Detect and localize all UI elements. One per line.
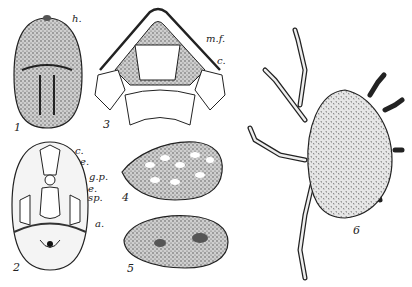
label-a: a. <box>95 219 104 229</box>
figure-number-6: 6 <box>353 225 360 236</box>
figure-number-3: 3 <box>103 119 110 130</box>
figure-3-capitulum <box>95 9 225 125</box>
figure-1-tick-dorsal <box>14 15 82 128</box>
label-sp: sp. <box>88 193 103 203</box>
figure-4-egg-form <box>122 142 222 200</box>
figure-number-1: 1 <box>14 122 21 133</box>
label-gp: g.p. <box>89 172 108 182</box>
label-c: c. <box>75 146 84 156</box>
figure-5-egg-form <box>124 216 228 268</box>
label-h: h. <box>72 14 82 24</box>
figure-2-tick-ventral <box>12 142 88 270</box>
figure-number-2: 2 <box>13 262 20 273</box>
figure-number-4: 4 <box>122 192 129 203</box>
label-e: e. <box>80 157 89 167</box>
label-mf: m.f. <box>206 34 225 44</box>
figure-number-5: 5 <box>127 263 134 274</box>
label-c-fig3: c. <box>217 56 226 66</box>
figure-6-mite <box>250 30 402 278</box>
